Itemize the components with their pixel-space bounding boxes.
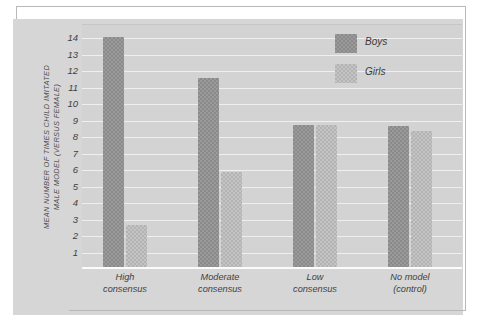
bar-girls-1 bbox=[126, 225, 147, 268]
y-axis-tick-11: 11 bbox=[56, 81, 78, 92]
gridline bbox=[82, 121, 462, 122]
y-axis-tick-14: 14 bbox=[56, 32, 78, 43]
x-axis-tick-label-1: High consensus bbox=[89, 272, 161, 295]
legend-swatch-girls-icon bbox=[335, 64, 357, 83]
y-axis-tick-9: 9 bbox=[56, 114, 78, 125]
chart-screenshot: MEAN NUMBER OF TIMES CHILD IMITATED MALE… bbox=[0, 0, 484, 330]
y-axis-tick-5: 5 bbox=[56, 180, 78, 191]
bar-boys-4 bbox=[388, 126, 409, 268]
legend-entry-girls: Girls bbox=[335, 62, 445, 92]
legend-swatch-boys-icon bbox=[335, 34, 357, 53]
bar-boys-1 bbox=[103, 37, 124, 268]
gridline bbox=[82, 104, 462, 105]
y-axis-tick-8: 8 bbox=[56, 131, 78, 142]
x-axis-baseline bbox=[82, 267, 462, 269]
bar-girls-4 bbox=[411, 131, 432, 268]
y-axis-tick-12: 12 bbox=[56, 65, 78, 76]
x-axis-tick-labels: High consensusModerate consensusLow cons… bbox=[82, 272, 462, 308]
legend-label-boys: Boys bbox=[365, 36, 387, 47]
legend-label-girls: Girls bbox=[365, 66, 386, 77]
y-axis-tick-3: 3 bbox=[56, 213, 78, 224]
y-axis-tick-4: 4 bbox=[56, 197, 78, 208]
y-axis-tick-13: 13 bbox=[56, 48, 78, 59]
bar-boys-3 bbox=[293, 125, 314, 268]
y-axis-tick-6: 6 bbox=[56, 164, 78, 175]
chart-legend: Boys Girls bbox=[335, 32, 445, 92]
x-axis-tick-label-4: No model (control) bbox=[374, 272, 446, 295]
x-axis-tick-label-2: Moderate consensus bbox=[184, 272, 256, 295]
bar-girls-3 bbox=[316, 125, 337, 268]
bar-girls-2 bbox=[221, 172, 242, 268]
y-axis-tick-labels: 1413121110987654321 bbox=[56, 19, 82, 315]
y-axis-tick-10: 10 bbox=[56, 98, 78, 109]
y-axis-tick-1: 1 bbox=[56, 246, 78, 257]
x-axis-tick-label-3: Low consensus bbox=[279, 272, 351, 295]
legend-entry-boys: Boys bbox=[335, 32, 445, 62]
y-axis-tick-7: 7 bbox=[56, 147, 78, 158]
y-axis-tick-2: 2 bbox=[56, 230, 78, 241]
bar-boys-2 bbox=[198, 78, 219, 268]
